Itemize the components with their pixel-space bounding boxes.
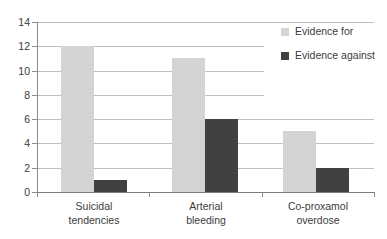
x-tick-mark [149, 192, 150, 197]
gridline-14 [38, 22, 374, 23]
y-tick-label: 12 [2, 41, 30, 52]
x-tick-mark [262, 192, 263, 197]
y-tick-label: 10 [2, 65, 30, 76]
x-axis-line [37, 192, 375, 193]
bar-evidence-for-co-proxamol-overdose [283, 131, 316, 192]
legend-item-evidence-for: Evidence for [281, 26, 375, 37]
category-label-line1: Suicidal [76, 200, 113, 212]
legend-swatch-icon [281, 28, 289, 36]
legend-item-evidence-against: Evidence against [281, 50, 375, 61]
category-label-line2: tendencies [38, 213, 150, 227]
bar-chart: 14 12 10 8 6 4 2 0 [0, 0, 387, 239]
bar-evidence-against-suicidal-tendencies [94, 180, 127, 192]
y-axis-labels: 14 12 10 8 6 4 2 0 [0, 0, 30, 239]
bar-evidence-against-co-proxamol-overdose [316, 168, 349, 192]
legend-label: Evidence for [295, 26, 353, 37]
y-tick-label: 8 [2, 90, 30, 101]
category-label-co-proxamol-overdose: Co-proxamol overdose [262, 199, 374, 228]
x-tick-mark [374, 192, 375, 197]
legend-label: Evidence against [295, 50, 375, 61]
bar-evidence-for-arterial-bleeding [172, 58, 205, 192]
y-tick-label: 6 [2, 114, 30, 125]
category-label-line2: overdose [262, 213, 374, 227]
category-label-line1: Arterial [189, 200, 222, 212]
category-label-line1: Co-proxamol [288, 200, 348, 212]
bar-evidence-for-suicidal-tendencies [61, 46, 94, 192]
x-tick-mark [37, 192, 38, 197]
y-tick-label: 14 [2, 17, 30, 28]
y-tick-label: 4 [2, 138, 30, 149]
y-tick-label: 2 [2, 162, 30, 173]
bar-evidence-against-arterial-bleeding [205, 119, 238, 192]
category-label-arterial-bleeding: Arterial bleeding [150, 199, 262, 228]
category-label-suicidal-tendencies: Suicidal tendencies [38, 199, 150, 228]
legend-swatch-icon [281, 52, 289, 60]
chart-legend: Evidence for Evidence against [281, 26, 375, 74]
category-label-line2: bleeding [150, 213, 262, 227]
y-tick-label: 0 [2, 187, 30, 198]
